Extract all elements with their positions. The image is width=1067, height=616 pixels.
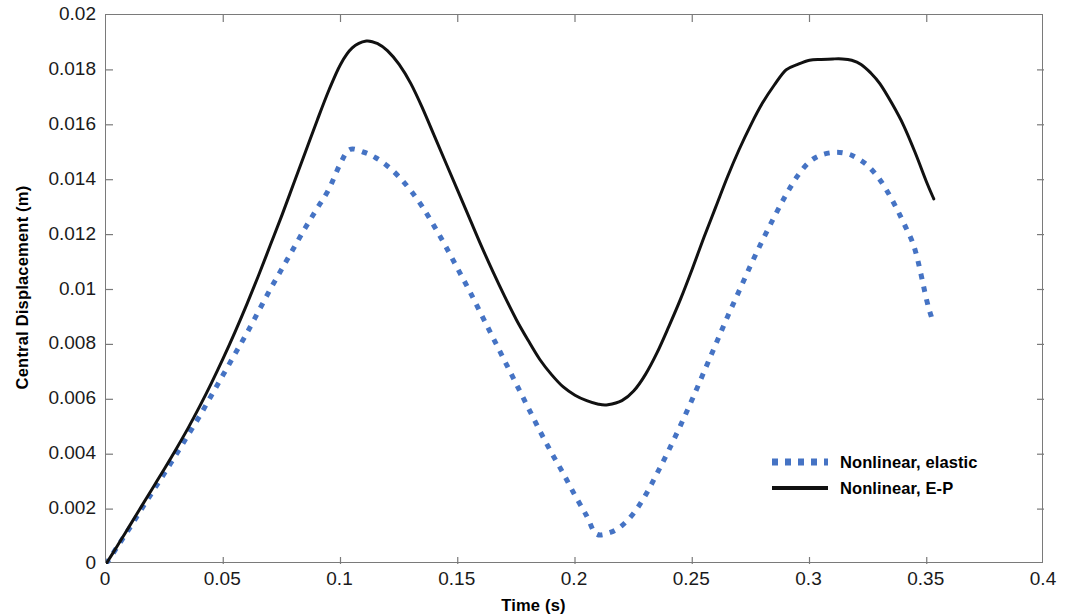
x-tick-label: 0.1	[326, 568, 352, 590]
y-tick-label: 0.004	[48, 442, 96, 464]
x-tick-label: 0.2	[561, 568, 587, 590]
y-tick-label: 0.006	[48, 387, 96, 409]
y-tick-label: 0.008	[48, 332, 96, 354]
y-tick-label: 0.02	[59, 3, 96, 25]
x-tick-label: 0.4	[1030, 568, 1056, 590]
y-tick-label: 0.018	[48, 58, 96, 80]
x-axis-tick-labels: 00.050.10.150.20.250.30.350.4	[0, 568, 1067, 598]
x-tick-label: 0.35	[907, 568, 944, 590]
legend-label-elastic: Nonlinear, elastic	[840, 453, 978, 472]
x-tick-label: 0.15	[438, 568, 475, 590]
y-tick-label: 0.014	[48, 168, 96, 190]
legend-swatch-solid-line-icon	[770, 481, 830, 495]
legend-label-ep: Nonlinear, E-P	[840, 479, 953, 498]
y-tick-label: 0.012	[48, 223, 96, 245]
y-tick-label: 0.01	[59, 278, 96, 300]
legend-swatch-dotted-line-icon	[770, 455, 830, 469]
x-tick-label: 0.3	[795, 568, 821, 590]
legend-item-ep: Nonlinear, E-P	[770, 475, 1020, 501]
y-tick-label: 0.002	[48, 497, 96, 519]
series-line-nonlinear-elastic	[106, 149, 931, 564]
legend-item-elastic: Nonlinear, elastic	[770, 449, 1020, 475]
x-tick-label: 0	[100, 568, 111, 590]
x-tick-label: 0.05	[204, 568, 241, 590]
chart-figure: 00.0020.0040.0060.0080.010.0120.0140.016…	[0, 0, 1067, 616]
chart-legend: Nonlinear, elastic Nonlinear, E-P	[770, 449, 1020, 501]
y-axis-title: Central Displacement (m)	[13, 158, 32, 418]
x-tick-label: 0.25	[673, 568, 710, 590]
y-tick-label: 0.016	[48, 113, 96, 135]
x-axis-title: Time (s)	[0, 596, 1067, 615]
